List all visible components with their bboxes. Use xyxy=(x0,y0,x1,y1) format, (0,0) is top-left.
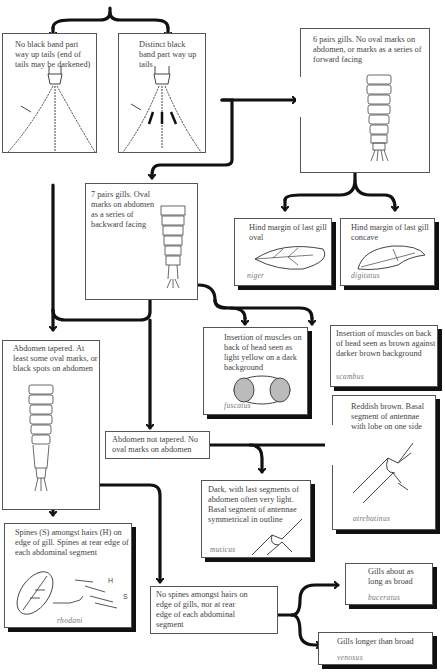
abdomen-illustration-tapered xyxy=(25,383,65,493)
species-label: scambus xyxy=(336,372,364,381)
species-label: niger xyxy=(247,271,264,280)
box-reddish-brown: Reddish brown. Basal segment of antennae… xyxy=(332,395,436,530)
box-text: Insertion of muscles on back of head see… xyxy=(336,329,440,359)
species-label: buceratus xyxy=(368,593,400,602)
notch-mask xyxy=(325,425,339,465)
box-text: Insertion of muscles on back of head see… xyxy=(224,333,306,373)
box-text: Abdomen not tapered. No oval marks on ab… xyxy=(112,435,210,455)
species-label: venosus xyxy=(337,653,363,662)
box-no-spines: No spines amongst hairs on edge of gills… xyxy=(150,586,278,634)
antenna-lobed-illustration xyxy=(343,438,423,508)
gill-oval-illustration xyxy=(253,241,333,276)
box-text: Gills longer than broad xyxy=(337,637,432,647)
box-text: Spines (S) amongst hairs (H) on edge of … xyxy=(15,528,130,558)
notch-mask xyxy=(296,77,304,117)
label-h: H xyxy=(108,576,113,586)
box-gills-longer: Gills longer than broad venosus xyxy=(318,632,433,665)
box-brown-against: Insertion of muscles on back of head see… xyxy=(330,325,438,387)
box-text: Gills about as long as broad xyxy=(368,567,428,587)
box-text: Hind margin of last gill oval xyxy=(249,223,327,243)
species-label: fuscatus xyxy=(224,401,251,410)
box-light-yellow: Insertion of muscles on back of head see… xyxy=(203,327,308,415)
box-no-black-band: No black band part way up tails (end of … xyxy=(2,33,97,153)
species-label: rhodani xyxy=(57,616,83,625)
box-text: Hind margin of last gill concave xyxy=(351,223,433,243)
tails-illustration-plain xyxy=(3,64,98,154)
box-distinct-black-band: Distinct black band part way up tails xyxy=(118,33,206,153)
box-abdomen-not-tapered: Abdomen not tapered. No oval marks on ab… xyxy=(105,431,210,459)
box-seven-pairs-gills: 7 pairs gills. Oval marks on abdomen as … xyxy=(85,183,198,300)
box-text: Reddish brown. Basal segment of antennae… xyxy=(351,402,433,432)
box-six-pairs-gills: 6 pairs gills. No oval marks on abdomen,… xyxy=(300,28,430,173)
box-text: No spines amongst hairs on edge of gills… xyxy=(156,590,251,630)
box-gills-as-broad: Gills about as long as broad buceratus xyxy=(345,563,433,605)
abdomen-illustration-backward xyxy=(159,204,199,289)
box-dark-last-segments: Dark, with last segments of abdomen ofte… xyxy=(201,480,311,558)
tails-illustration-banded xyxy=(119,64,207,154)
species-label: muticus xyxy=(210,545,235,554)
box-abdomen-tapered: Abdomen tapered. At least some oval mark… xyxy=(2,340,100,510)
box-text: 6 pairs gills. No oval marks on abdomen,… xyxy=(313,35,425,65)
box-text: 7 pairs gills. Oval marks on abdomen as … xyxy=(91,190,163,230)
box-text: Abdomen tapered. At least some oval mark… xyxy=(13,344,98,374)
label-s: S xyxy=(123,592,128,602)
species-label: atrebatinus xyxy=(353,514,390,523)
box-spines-amongst-hairs: Spines (S) amongst hairs (H) on edge of … xyxy=(4,523,132,628)
box-hind-margin-concave: Hind margin of last gill concave digitat… xyxy=(340,218,435,286)
species-label: digitatus xyxy=(351,271,380,280)
antenna-symmetric-illustration xyxy=(247,517,307,557)
abdomen-illustration-forward xyxy=(363,73,403,163)
box-hind-margin-oval: Hind margin of last gill oval niger xyxy=(234,218,332,286)
